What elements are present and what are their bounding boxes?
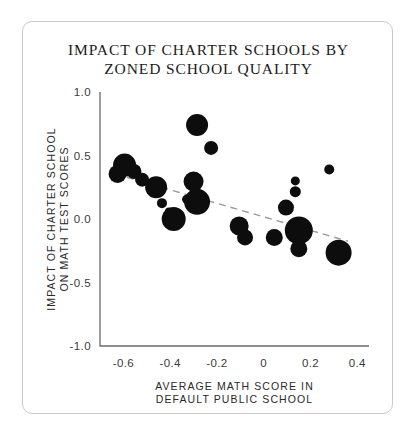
data-point[interactable] [237, 229, 253, 245]
data-point[interactable] [290, 186, 301, 197]
x-axis-title: DEFAULT PUBLIC SCHOOL [156, 393, 314, 405]
x-tick-label: -0.6 [113, 357, 134, 369]
x-tick-label: 0.4 [349, 357, 366, 369]
y-axis-title: ON MATH TEST SCORES [58, 146, 70, 291]
data-point[interactable] [291, 176, 300, 185]
x-tick-label: 0.2 [302, 357, 319, 369]
data-point[interactable] [266, 229, 283, 246]
y-tick-label: -0.5 [70, 277, 91, 289]
data-point[interactable] [326, 240, 352, 266]
x-axis-title: AVERAGE MATH SCORE IN [155, 380, 314, 392]
data-point[interactable] [145, 176, 167, 198]
chart-card: IMPACT OF CHARTER SCHOOLS BY ZONED SCHOO… [22, 21, 393, 414]
x-tick-label: -0.4 [159, 357, 181, 369]
scatter-plot: 1.00.50.0-0.5-1.0-0.6-0.4-0.200.20.4AVER… [23, 22, 394, 415]
data-point[interactable] [162, 207, 186, 231]
data-point[interactable] [278, 200, 294, 216]
data-point[interactable] [324, 164, 334, 174]
data-point[interactable] [184, 172, 204, 192]
y-tick-label: -1.0 [70, 340, 91, 352]
y-tick-label: 0.5 [74, 150, 91, 162]
y-tick-label: 1.0 [74, 86, 91, 98]
data-point[interactable] [285, 216, 313, 244]
data-point[interactable] [184, 189, 210, 215]
y-axis-title: IMPACT OF CHARTER SCHOOL [45, 127, 57, 310]
data-point[interactable] [157, 198, 167, 208]
data-point[interactable] [290, 240, 307, 257]
y-tick-label: 0.0 [74, 213, 91, 225]
data-point[interactable] [186, 114, 208, 136]
data-point[interactable] [204, 141, 218, 155]
x-tick-label: -0.2 [206, 357, 227, 369]
x-tick-label: 0 [260, 357, 267, 369]
